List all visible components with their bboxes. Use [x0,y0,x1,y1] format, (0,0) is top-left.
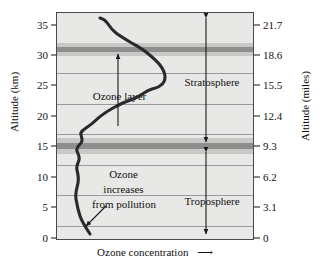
x-axis-title: Ozone concentration ⟶ [56,246,254,259]
y-tick-label-km: 35 [18,20,48,31]
tropopause-band-core [57,143,253,149]
gridline [57,226,253,227]
gridline [57,165,253,166]
annotation-troposphere: Troposphere [169,195,255,208]
y-tick-label-miles: 9.3 [263,141,297,152]
x-axis-title-text: Ozone concentration [97,246,188,258]
y-tick-label-miles: 15.5 [263,80,297,91]
plot-area: Ozone layer Ozone increases from polluti… [56,12,254,240]
annotation-stratosphere: Stratosphere [169,76,255,89]
y-tick-label-miles: 6.2 [263,172,297,183]
x-axis-arrow-icon: ⟶ [197,246,213,258]
y-tick-label-miles: 3.1 [263,202,297,213]
y-tick-label-km: 15 [18,141,48,152]
y-tick-label-miles: 12.4 [263,111,297,122]
y-axis-title-miles: Altitude (miles) [299,51,311,161]
y-axis-title-km: Altitude (km) [8,52,20,152]
tropopause-band [57,138,253,154]
annotation-ozone-pollution-line3: from pollution [65,198,183,211]
y-tick-label-km: 5 [18,202,48,213]
stratopause-band [57,43,253,56]
y-tick-label-miles: 0 [263,233,297,244]
annotation-ozone-layer: Ozone layer [67,90,172,103]
y-tick-label-km: 0 [18,233,48,244]
y-tick-label-km: 25 [18,80,48,91]
annotation-ozone-pollution-line2: increases [71,183,176,196]
stratopause-band-core [57,47,253,52]
y-tick-label-km: 30 [18,50,48,61]
annotation-ozone-pollution-line1: Ozone [71,168,176,181]
y-tick-label-km: 10 [18,172,48,183]
y-tick-label-miles: 18.6 [263,50,297,61]
gridline [57,134,253,135]
ozone-altitude-figure: Altitude (km) Altitude (miles) Ozone lay… [0,0,319,270]
gridline [57,104,253,105]
gridline [57,73,253,74]
y-tick-label-km: 20 [18,111,48,122]
y-tick-label-miles: 21.7 [263,20,297,31]
